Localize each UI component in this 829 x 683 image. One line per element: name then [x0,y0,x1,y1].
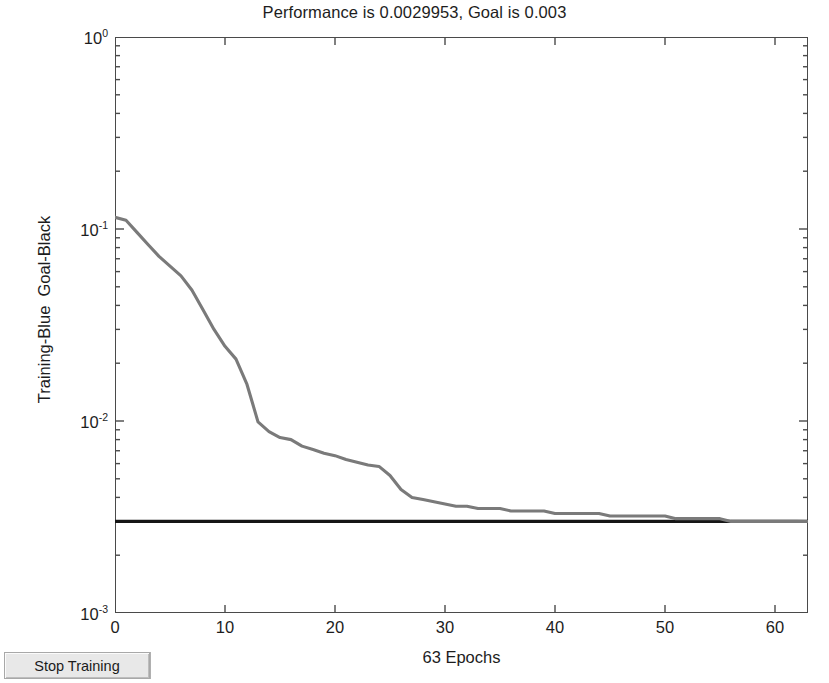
y-tick-exponent: -2 [99,411,108,423]
x-tick-label: 0 [93,618,137,637]
button-separator [150,652,151,679]
y-tick-label: 10-2 [48,411,108,432]
y-tick-label: 10-1 [48,219,108,240]
x-tick-label: 20 [313,618,357,637]
x-axis-tick-labels: 0102030405060 [0,618,829,644]
y-tick-exponent: 0 [102,27,108,39]
chart-canvas [115,37,808,613]
x-tick-label: 40 [533,618,577,637]
training-performance-figure: Performance is 0.0029953, Goal is 0.003 … [0,0,829,683]
x-tick-label: 50 [643,618,687,637]
y-tick-exponent: -3 [99,603,108,615]
y-tick-label: 100 [48,27,108,48]
x-tick-label: 60 [753,618,797,637]
y-axis-label: Training-Blue Goal-Black [35,160,54,460]
x-tick-label: 30 [423,618,467,637]
axis-tick-marks [115,37,808,613]
x-tick-label: 10 [203,618,247,637]
stop-training-button[interactable]: Stop Training [4,652,150,679]
chart-title: Performance is 0.0029953, Goal is 0.003 [0,3,829,22]
x-axis-label: 63 Epochs [115,648,808,667]
y-tick-exponent: -1 [99,219,108,231]
training-curve [115,217,808,521]
